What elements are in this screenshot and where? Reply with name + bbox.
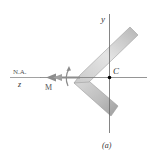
angle-upper-leg	[74, 27, 138, 83]
angle-section-diagram: y C N.A. z M (a)	[0, 0, 151, 158]
moment-label: M	[45, 83, 52, 92]
centroid-label: C	[113, 66, 120, 76]
neutral-axis-label: N.A.	[13, 68, 27, 76]
z-axis-label: z	[17, 80, 22, 89]
centroid-point	[108, 76, 112, 80]
y-axis-label: y	[100, 14, 105, 24]
moment-rotation-arrow-icon	[66, 66, 71, 86]
moment-vector-icon	[46, 74, 80, 82]
figure-caption: (a)	[102, 141, 112, 150]
